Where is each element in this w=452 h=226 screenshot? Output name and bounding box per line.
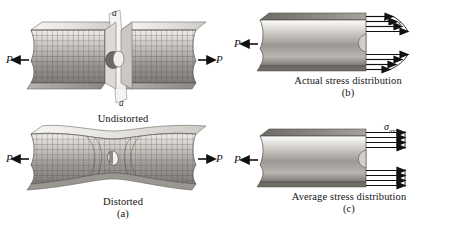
average-stress-drawing — [236, 120, 452, 192]
load-label-actual: P — [234, 37, 241, 49]
load-label-left-undistorted: P — [6, 53, 13, 65]
panel-actual-stress: P σmax — [236, 4, 452, 76]
sigma-avg-label: σavg — [384, 121, 399, 135]
actual-stress-drawing — [236, 4, 452, 76]
distorted-bar-drawing — [0, 118, 226, 196]
caption-distorted-sublabel: (a) — [63, 208, 183, 220]
section-label-bottom: a — [119, 98, 124, 108]
caption-actual-stress-text: Actual stress distribution — [294, 75, 402, 86]
caption-actual-stress: Actual stress distribution (b) — [253, 75, 443, 98]
caption-average-stress-sublabel: (c) — [249, 203, 449, 215]
panel-undistorted: P P a a — [0, 4, 226, 112]
stress-arrows-average — [366, 129, 405, 188]
caption-distorted: Distorted (a) — [63, 196, 183, 219]
caption-actual-stress-sublabel: (b) — [253, 87, 443, 99]
load-arrow-actual — [241, 40, 258, 48]
figure-root: P P a a Undistorted — [0, 0, 452, 226]
hole-right-half — [113, 51, 124, 67]
caption-distorted-text: Distorted — [103, 196, 143, 207]
caption-average-stress-text: Average stress distribution — [292, 191, 406, 202]
panel-distorted: P P — [0, 118, 226, 196]
panel-average-stress: P σavg — [236, 120, 452, 192]
sigma-subscript-max: max — [389, 19, 401, 27]
caption-average-stress: Average stress distribution (c) — [249, 191, 449, 214]
load-arrow-average — [241, 156, 258, 164]
sigma-subscript-avg: avg — [389, 127, 399, 135]
load-arrow-right — [198, 56, 215, 64]
load-arrow-left — [12, 56, 29, 64]
section-label-top: a — [112, 8, 117, 18]
load-arrow-right-distorted — [198, 155, 215, 163]
load-arrow-left-distorted — [12, 155, 29, 163]
load-label-average: P — [234, 153, 241, 165]
undistorted-bar-drawing — [0, 4, 226, 112]
load-label-right-distorted: P — [216, 152, 223, 164]
sigma-max-label: σmax — [384, 13, 401, 27]
load-label-right-undistorted: P — [216, 53, 223, 65]
load-label-left-distorted: P — [6, 152, 13, 164]
